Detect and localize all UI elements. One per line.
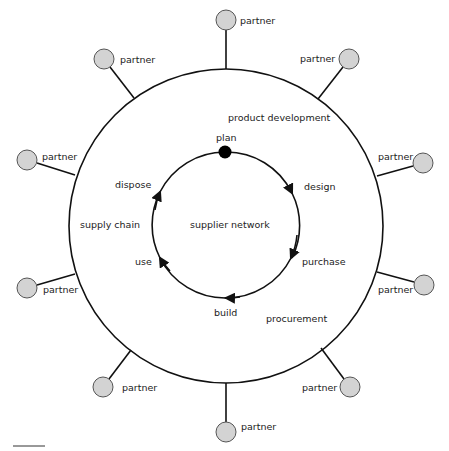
partner-node-bottom-left [93,377,113,397]
arc-build-to-use [160,258,226,298]
partner-label-left-upper: partner [42,151,77,162]
ring-label-supply-chain: supply chain [80,219,140,230]
arc-build-arrow [226,297,240,298]
stage-label-design: design [304,181,336,192]
partner-node-right-upper [413,153,433,173]
partner-node-bottom [216,422,236,442]
arc-design-to-purchase [292,193,300,258]
arc-plan-to-design [225,152,292,193]
plan-start-dot [219,146,232,159]
spoke-top-right [318,67,343,99]
spoke-left-upper [37,163,75,175]
partner-node-top-left [94,49,114,69]
arc-use-arrow [160,258,170,271]
spoke-top-left [110,67,134,98]
supplier-network-diagram: plan design purchase build use dispose s… [0,0,449,451]
partner-node-top [216,10,236,30]
spoke-bottom-right [321,348,344,379]
partner-label-bottom-left: partner [122,382,157,393]
stage-label-plan: plan [216,132,237,143]
partner-node-left-lower [17,278,37,298]
partner-label-right-lower: partner [378,284,413,295]
partner-label-top-left: partner [120,54,155,65]
ring-label-procurement: procurement [266,313,327,324]
partner-label-top-right: partner [300,53,335,64]
ring-label-product-development: product development [228,112,331,123]
arc-purchase-to-build [225,258,291,298]
spoke-bottom-left [109,350,131,379]
arc-dispose-to-plan [160,152,225,192]
partner-node-left-upper [17,150,37,170]
partner-node-bottom-right [340,377,360,397]
stage-label-dispose: dispose [115,179,151,190]
stage-label-build: build [214,307,237,318]
stage-label-use: use [135,256,152,267]
partner-label-left-lower: partner [43,284,78,295]
spoke-right-upper [377,166,413,176]
center-label-supplier-network: supplier network [190,219,270,230]
partner-label-bottom-right: partner [302,382,337,393]
partner-label-right-upper: partner [378,151,413,162]
stage-label-purchase: purchase [302,256,346,267]
partner-node-top-right [339,49,359,69]
partner-label-top: partner [240,15,275,26]
partner-label-bottom: partner [241,421,276,432]
partner-node-right-lower [414,275,434,295]
spoke-right-lower [377,272,414,282]
